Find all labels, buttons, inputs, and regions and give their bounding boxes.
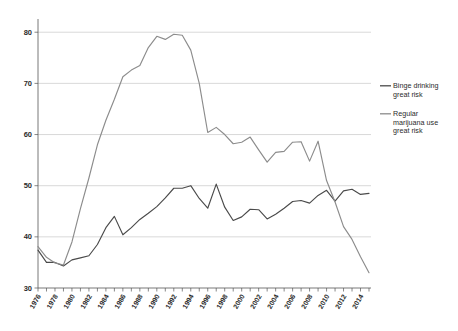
y-tick-label: 30 <box>24 284 32 293</box>
legend: Binge drinkinggreat riskRegularmarijuana… <box>380 81 439 135</box>
y-tick-label: 40 <box>24 232 32 241</box>
x-tick-label: 1988 <box>130 293 144 310</box>
x-tick-label: 2004 <box>266 293 280 310</box>
x-tick-label: 1996 <box>198 293 212 310</box>
legend-label-binge-drinking: great risk <box>393 90 423 99</box>
y-tick-label: 50 <box>24 181 32 190</box>
y-tick-label: 70 <box>24 79 32 88</box>
legend-item-marijuana[interactable]: Regularmarijuana usegreat risk <box>380 109 438 135</box>
x-tick-label: 1998 <box>215 293 229 310</box>
series-line-binge-drinking <box>38 184 369 266</box>
x-tick-label: 1992 <box>164 293 178 310</box>
x-tick-label: 1978 <box>45 293 59 310</box>
x-tick-label: 2006 <box>283 293 297 310</box>
x-tick-label: 1994 <box>181 293 195 310</box>
x-tick-label: 2010 <box>317 293 331 310</box>
y-tick-label: 60 <box>24 130 32 139</box>
x-tick-label: 1986 <box>113 293 127 310</box>
x-tick-label: 2008 <box>300 293 314 310</box>
y-tick-label: 80 <box>24 28 32 37</box>
chart-canvas: 3040506070801976197819801982198419861988… <box>0 0 458 331</box>
x-tick-label: 1982 <box>79 293 93 310</box>
x-tick-label: 1980 <box>62 293 76 310</box>
legend-label-marijuana: great risk <box>393 126 423 135</box>
x-tick-label: 2012 <box>334 293 348 310</box>
x-tick-label: 2000 <box>232 293 246 310</box>
legend-item-binge-drinking[interactable]: Binge drinkinggreat risk <box>380 81 439 99</box>
x-tick-label: 1984 <box>96 293 110 310</box>
x-axis-ticks: 1976197819801982198419861988199019921994… <box>28 288 369 310</box>
x-tick-label: 1990 <box>147 293 161 310</box>
x-tick-label: 2002 <box>249 293 263 310</box>
line-chart: 3040506070801976197819801982198419861988… <box>0 0 458 331</box>
x-tick-label: 1976 <box>28 293 42 310</box>
x-tick-label: 2014 <box>351 293 365 310</box>
gridlines: 304050607080 <box>24 28 371 293</box>
